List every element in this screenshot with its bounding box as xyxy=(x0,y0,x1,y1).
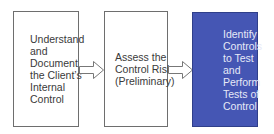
step-2-label: Assess the Control Risk (Preliminary) xyxy=(105,51,175,87)
line: Internal xyxy=(22,81,65,93)
right-arrow-icon xyxy=(79,60,105,80)
line: and xyxy=(208,64,241,76)
line: Perform xyxy=(208,76,260,88)
line: Controls xyxy=(208,40,262,52)
line: Assess the xyxy=(110,51,166,63)
step-2-box: Assess the Control Risk (Preliminary) xyxy=(104,11,168,127)
line: Control xyxy=(208,100,257,112)
line: the Client’s xyxy=(22,69,82,81)
step-3-box-highlighted: Identify Controls to Test and Perform Te… xyxy=(192,12,258,127)
step-1-box: Understand and Document the Client’s Int… xyxy=(13,11,79,127)
right-arrow-icon xyxy=(168,60,194,80)
line: (Preliminary) xyxy=(110,75,175,87)
line: Control xyxy=(22,93,64,105)
line: Tests of xyxy=(208,88,259,100)
line: Control Risk xyxy=(110,63,172,75)
step-3-label: Identify Controls to Test and Perform Te… xyxy=(193,28,262,112)
line: Understand xyxy=(22,33,84,45)
line: Document xyxy=(22,57,78,69)
line: to Test xyxy=(208,52,254,64)
line: Identify xyxy=(208,28,257,40)
step-1-label: Understand and Document the Client’s Int… xyxy=(14,33,84,105)
line: and xyxy=(22,45,48,57)
